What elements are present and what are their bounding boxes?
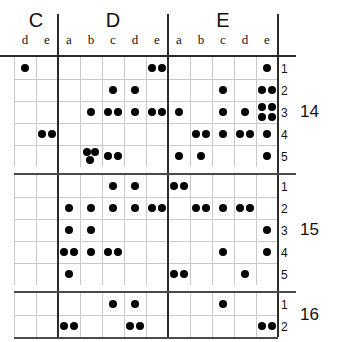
dot-mark bbox=[175, 152, 183, 160]
dot-cell bbox=[124, 79, 146, 101]
block-number: 14 bbox=[300, 103, 334, 120]
dot-mark bbox=[258, 113, 266, 121]
column-divider bbox=[190, 293, 191, 337]
dot-cell bbox=[80, 145, 102, 167]
dot-cell bbox=[234, 123, 256, 145]
dot-mark bbox=[258, 86, 266, 94]
group-header-c: C bbox=[14, 10, 58, 30]
row-number: 3 bbox=[281, 107, 295, 119]
dot-cell bbox=[102, 175, 124, 197]
row-number: 2 bbox=[281, 203, 295, 215]
column-header-c-d: d bbox=[14, 33, 36, 47]
dot-mark bbox=[114, 152, 122, 160]
row-number: 2 bbox=[281, 321, 295, 333]
dot-mark bbox=[263, 152, 271, 160]
dot-mark bbox=[219, 204, 227, 212]
column-divider bbox=[14, 293, 15, 337]
dot-mark bbox=[65, 204, 73, 212]
dot-cell bbox=[256, 241, 278, 263]
dot-cell bbox=[124, 101, 146, 123]
dot-cell bbox=[36, 123, 58, 145]
column-header-e-d: d bbox=[234, 33, 256, 47]
dot-mark bbox=[158, 64, 166, 72]
dot-cell bbox=[190, 145, 212, 167]
dot-cell bbox=[212, 79, 234, 101]
dot-cell bbox=[212, 197, 234, 219]
dot-mark bbox=[87, 204, 95, 212]
column-divider bbox=[36, 293, 37, 337]
dot-cell bbox=[102, 293, 124, 315]
block-separator bbox=[14, 337, 278, 339]
dot-cell bbox=[234, 263, 256, 285]
dot-cell bbox=[146, 57, 168, 79]
dot-cell bbox=[256, 219, 278, 241]
block-separator bbox=[14, 173, 296, 175]
row-number: 1 bbox=[281, 299, 295, 311]
dot-mark bbox=[246, 130, 254, 138]
column-header-c-e: e bbox=[36, 33, 58, 47]
dot-mark bbox=[197, 152, 205, 160]
dot-mark bbox=[38, 130, 46, 138]
dot-mark bbox=[148, 204, 156, 212]
dot-mark bbox=[86, 156, 94, 164]
dot-mark bbox=[246, 204, 254, 212]
dot-mark bbox=[258, 322, 266, 330]
dot-mark bbox=[131, 300, 139, 308]
column-header-e-e: e bbox=[256, 33, 278, 47]
dot-mark bbox=[263, 248, 271, 256]
dot-mark bbox=[202, 130, 210, 138]
row-number: 5 bbox=[281, 269, 295, 281]
dot-cell bbox=[124, 293, 146, 315]
dot-cell bbox=[102, 79, 124, 101]
column-header-d-b: b bbox=[80, 33, 102, 47]
dot-mark bbox=[131, 86, 139, 94]
dot-mark bbox=[170, 182, 178, 190]
column-header-e-b: b bbox=[190, 33, 212, 47]
row-number: 1 bbox=[281, 63, 295, 75]
dot-cell bbox=[256, 315, 278, 337]
dot-cell bbox=[58, 219, 80, 241]
dot-cell bbox=[190, 123, 212, 145]
dot-mark bbox=[87, 248, 95, 256]
dot-cell bbox=[256, 123, 278, 145]
row-number: 5 bbox=[281, 151, 295, 163]
dot-cell bbox=[58, 197, 80, 219]
dot-cell bbox=[102, 241, 124, 263]
dot-mark bbox=[70, 248, 78, 256]
dot-mark bbox=[136, 322, 144, 330]
dot-mark bbox=[114, 248, 122, 256]
dot-cell bbox=[256, 57, 278, 79]
dot-mark bbox=[258, 103, 266, 111]
column-header-d-e: e bbox=[146, 33, 168, 47]
dot-cell bbox=[58, 263, 80, 285]
dot-mark bbox=[109, 300, 117, 308]
dot-mark bbox=[219, 86, 227, 94]
dot-mark bbox=[241, 108, 249, 116]
column-header-d-d: d bbox=[124, 33, 146, 47]
dot-cell bbox=[234, 197, 256, 219]
dot-mark bbox=[104, 108, 112, 116]
dot-cell bbox=[168, 101, 190, 123]
dot-mark bbox=[109, 86, 117, 94]
column-header-d-a: a bbox=[58, 33, 80, 47]
column-divider bbox=[146, 293, 147, 337]
column-divider bbox=[14, 175, 15, 285]
dot-mark bbox=[109, 204, 117, 212]
dot-mark bbox=[87, 108, 95, 116]
dot-cell bbox=[212, 101, 234, 123]
dot-mark bbox=[192, 204, 200, 212]
dot-mark bbox=[104, 248, 112, 256]
group-header-d: D bbox=[58, 10, 168, 30]
dot-mark bbox=[21, 64, 29, 72]
dot-cell bbox=[190, 197, 212, 219]
dot-mark bbox=[263, 130, 271, 138]
dot-mark bbox=[65, 226, 73, 234]
dot-mark bbox=[158, 204, 166, 212]
dot-mark bbox=[268, 103, 276, 111]
dot-mark bbox=[263, 226, 271, 234]
dot-mark bbox=[148, 64, 156, 72]
dot-mark bbox=[65, 270, 73, 278]
dot-mark bbox=[60, 248, 68, 256]
dot-mark bbox=[236, 130, 244, 138]
dot-mark bbox=[192, 130, 200, 138]
